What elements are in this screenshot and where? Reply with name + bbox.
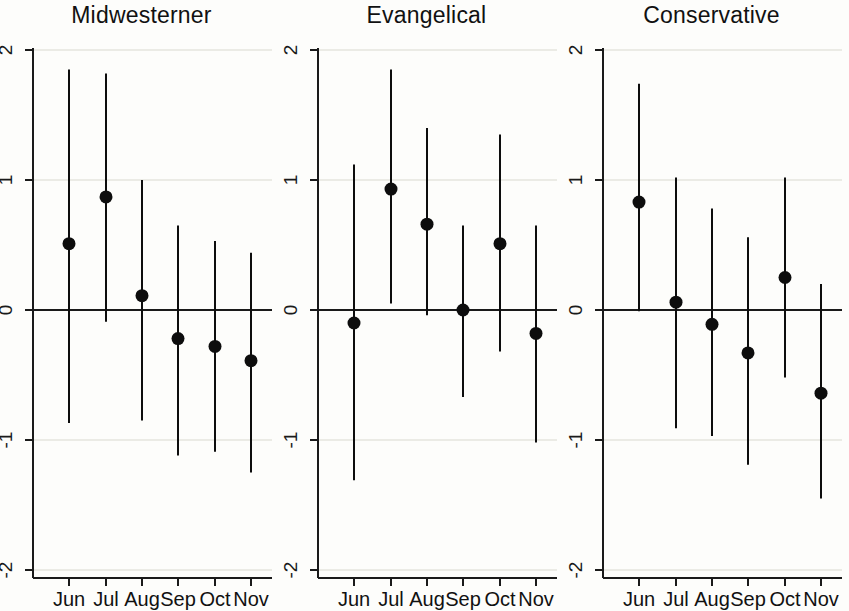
y-tick-label: -1 xyxy=(280,425,302,455)
data-point-oct xyxy=(494,237,507,250)
y-tick-label: 1 xyxy=(565,165,587,195)
y-tick-label: -2 xyxy=(565,555,587,585)
three-panel-coefficient-plot: Midwesterner210-1-2JunJulAugSepOctNovEva… xyxy=(0,0,849,611)
data-point-aug xyxy=(136,289,149,302)
y-tick-label: 0 xyxy=(280,295,302,325)
y-tick-label: 2 xyxy=(280,35,302,65)
data-point-jul xyxy=(100,190,113,203)
x-tick-label-nov: Nov xyxy=(229,588,273,611)
panel-evangelical: Evangelical210-1-2JunJulAugSepOctNov xyxy=(285,0,568,611)
y-tick-label: 1 xyxy=(280,165,302,195)
panel-midwesterner: Midwesterner210-1-2JunJulAugSepOctNov xyxy=(0,0,283,611)
plot-area xyxy=(570,0,849,611)
data-point-sep xyxy=(742,346,755,359)
data-point-jul xyxy=(670,296,683,309)
data-point-sep xyxy=(172,332,185,345)
data-point-oct xyxy=(779,271,792,284)
y-tick-label: -2 xyxy=(0,555,17,585)
data-point-aug xyxy=(421,218,434,231)
data-point-jun xyxy=(633,196,646,209)
plot-area xyxy=(0,0,283,611)
data-point-nov xyxy=(530,327,543,340)
data-point-jul xyxy=(385,183,398,196)
x-tick-label-nov: Nov xyxy=(799,588,843,611)
x-tick-label-nov: Nov xyxy=(514,588,558,611)
y-tick-label: 2 xyxy=(0,35,17,65)
data-point-oct xyxy=(209,340,222,353)
data-point-nov xyxy=(245,354,258,367)
data-point-jun xyxy=(63,237,76,250)
plot-area xyxy=(285,0,568,611)
y-tick-label: -1 xyxy=(565,425,587,455)
y-tick-label: -1 xyxy=(0,425,17,455)
data-point-aug xyxy=(706,318,719,331)
data-point-nov xyxy=(815,387,828,400)
y-tick-label: 1 xyxy=(0,165,17,195)
panel-conservative: Conservative210-1-2JunJulAugSepOctNov xyxy=(570,0,849,611)
y-tick-label: -2 xyxy=(280,555,302,585)
y-tick-label: 0 xyxy=(565,295,587,325)
data-point-jun xyxy=(348,317,361,330)
data-point-sep xyxy=(457,304,470,317)
y-tick-label: 2 xyxy=(565,35,587,65)
y-tick-label: 0 xyxy=(0,295,17,325)
